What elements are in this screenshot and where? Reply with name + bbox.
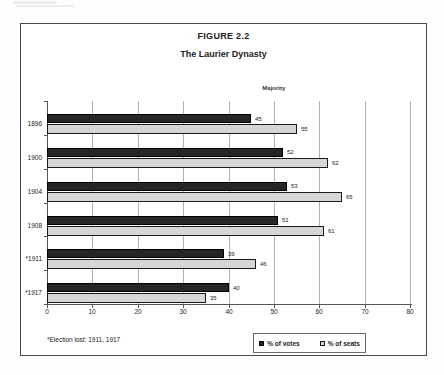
bar-value-seats: 55 (301, 126, 308, 132)
category-band-1908: 19085161 (47, 203, 410, 237)
bar-votes (47, 114, 251, 123)
bar-votes (47, 182, 287, 191)
bar-value-seats: 46 (260, 261, 267, 267)
scan-artifact (16, 5, 74, 7)
bar-seats (47, 192, 342, 202)
legend-item-seats: % of seats (320, 340, 360, 347)
category-band-1904: 19045365 (47, 169, 410, 203)
bar-value-seats: 65 (346, 194, 353, 200)
bar-seats (47, 124, 297, 134)
legend-votes-label: % of votes (267, 340, 300, 347)
category-band-1917: *19174035 (47, 270, 410, 304)
x-tick-label-50: 50 (264, 308, 284, 315)
x-tick-label-30: 30 (173, 308, 193, 315)
bar-votes (47, 148, 283, 157)
category-label: 1896 (12, 120, 42, 127)
votes-swatch-icon (259, 341, 264, 346)
bar-seats (47, 259, 256, 269)
bar-value-votes: 40 (233, 285, 240, 291)
page: { "page": { "title": "FIGURE 2.2", "subt… (0, 0, 444, 375)
x-tick-label-10: 10 (82, 308, 102, 315)
bar-seats (47, 293, 206, 303)
category-band-1911: *19113946 (47, 236, 410, 270)
x-tick-label-40: 40 (219, 308, 239, 315)
bar-value-votes: 39 (228, 251, 235, 257)
category-label: 1908 (12, 221, 42, 228)
scan-artifact (13, 1, 57, 4)
category-label: 1900 (12, 153, 42, 160)
x-tick-label-20: 20 (128, 308, 148, 315)
y-axis-tick (44, 304, 47, 305)
bar-value-votes: 52 (287, 149, 294, 155)
bar-votes (47, 216, 278, 225)
bar-value-seats: 61 (328, 228, 335, 234)
footnote: *Election lost: 1911, 1917 (47, 336, 120, 343)
bar-value-seats: 35 (210, 295, 217, 301)
seats-swatch-icon (320, 341, 325, 346)
legend-item-votes: % of votes (259, 340, 300, 347)
legend-seats-label: % of seats (328, 340, 360, 347)
x-tick-label-80: 80 (400, 308, 420, 315)
bar-value-votes: 45 (255, 116, 262, 122)
legend: % of votes % of seats (253, 333, 366, 353)
x-tick-label-0: 0 (37, 308, 57, 315)
bar-value-seats: 62 (332, 160, 339, 166)
gridline-80 (410, 101, 411, 304)
x-tick-label-70: 70 (355, 308, 375, 315)
figure-title: FIGURE 2.2 (21, 31, 426, 41)
bar-seats (47, 158, 328, 168)
majority-annotation: Majority (262, 85, 285, 91)
category-label: *1917 (12, 289, 42, 296)
bar-votes (47, 283, 229, 292)
category-label: 1904 (12, 187, 42, 194)
bar-value-votes: 51 (282, 217, 289, 223)
bar-seats (47, 226, 324, 236)
figure-frame: FIGURE 2.2 The Laurier Dynasty Majority … (20, 23, 427, 356)
bar-value-votes: 53 (291, 183, 298, 189)
x-tick-label-60: 60 (309, 308, 329, 315)
category-band-1896: 18964555 (47, 101, 410, 135)
plot-area: 18964555190052621904536519085161*1911394… (47, 101, 410, 304)
category-band-1900: 19005262 (47, 135, 410, 169)
category-label: *1911 (12, 255, 42, 262)
bar-votes (47, 249, 224, 258)
figure-subtitle: The Laurier Dynasty (21, 49, 426, 59)
